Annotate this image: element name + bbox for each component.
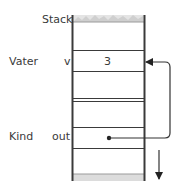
stack-diagram	[0, 0, 180, 181]
stack-bottom-texture	[73, 174, 144, 181]
stack-top-texture	[73, 15, 144, 22]
pointer-arrow	[109, 62, 170, 138]
